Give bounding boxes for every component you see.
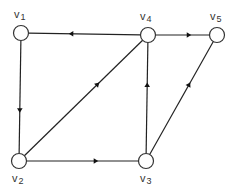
node-label-v2: v2 xyxy=(12,172,24,186)
node-v1 xyxy=(14,26,29,41)
node-label-v1: v1 xyxy=(14,8,26,22)
arrowhead-v1-v2 xyxy=(17,108,23,113)
arrowhead-v4-v5 xyxy=(187,32,192,38)
node-v4 xyxy=(141,28,156,43)
edge-v4-v1 xyxy=(28,33,140,35)
edge-v1-v2 xyxy=(19,40,21,153)
arrowhead-v3-v4 xyxy=(144,82,150,87)
edge-v2-v4 xyxy=(24,40,142,156)
node-label-v4: v4 xyxy=(140,10,152,24)
arrowhead-v2-v3 xyxy=(94,158,99,164)
node-v3 xyxy=(139,154,154,169)
edges-layer xyxy=(17,31,213,164)
edge-v3-v4 xyxy=(146,42,148,153)
arrowhead-v4-v1 xyxy=(69,31,74,37)
node-label-v5: v5 xyxy=(210,10,222,24)
directed-graph: v1v2v3v4v5 xyxy=(0,0,238,192)
node-v5 xyxy=(210,28,225,43)
node-v2 xyxy=(12,154,27,169)
edge-v3-v5 xyxy=(150,42,214,155)
node-label-v3: v3 xyxy=(140,172,152,186)
